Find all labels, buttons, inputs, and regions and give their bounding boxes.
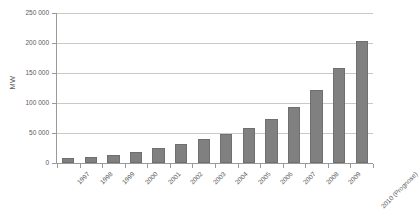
x-axis-tick — [80, 164, 81, 168]
y-axis-tick-label: 150 000 — [26, 70, 50, 77]
gridline — [57, 73, 373, 74]
x-axis-tick — [192, 164, 193, 168]
bar — [265, 119, 277, 163]
x-axis-tick-label: 1998 — [99, 171, 114, 186]
x-axis-tick-label: 2006 — [280, 171, 295, 186]
x-axis-tick — [215, 164, 216, 168]
bar — [288, 107, 300, 163]
y-axis-tick-label: 50 000 — [29, 130, 49, 137]
bar — [107, 155, 119, 163]
bar — [85, 157, 97, 163]
x-axis-tick — [57, 164, 58, 168]
x-axis-tick-label: 2004 — [235, 171, 250, 186]
bar — [152, 148, 164, 163]
x-axis-tick — [373, 164, 374, 168]
x-axis-tick-label: 2009 — [347, 171, 362, 186]
y-axis-tick-label: 0 — [45, 160, 49, 167]
x-axis-tick — [147, 164, 148, 168]
x-axis-tick-label: 2002 — [189, 171, 204, 186]
bar — [243, 128, 255, 163]
x-axis-tick — [260, 164, 261, 168]
x-axis-tick-label: 2001 — [167, 171, 182, 186]
x-axis-tick-label: 1999 — [122, 171, 137, 186]
x-axis-tick — [125, 164, 126, 168]
x-axis-tick — [238, 164, 239, 168]
bar — [356, 41, 368, 163]
x-axis-tick — [305, 164, 306, 168]
gridline — [57, 43, 373, 44]
plot-area — [57, 13, 373, 163]
y-axis-title: MW — [2, 52, 24, 112]
y-axis-tick-label: 200 000 — [26, 40, 50, 47]
x-axis-tick-label: 1997 — [77, 171, 92, 186]
x-axis-tick-label: 2010 (Prognose) — [380, 171, 419, 210]
bar — [310, 90, 322, 163]
gridline — [57, 133, 373, 134]
x-axis-tick — [283, 164, 284, 168]
y-axis-tick-label: 100 000 — [26, 100, 50, 107]
x-axis-tick — [350, 164, 351, 168]
x-axis-tick — [170, 164, 171, 168]
y-axis-title-text: MW — [9, 75, 18, 89]
bar — [333, 68, 345, 163]
gridline — [57, 103, 373, 104]
x-axis-tick-label: 2005 — [257, 171, 272, 186]
bar — [198, 139, 210, 163]
bar — [130, 152, 142, 163]
x-axis-tick-label: 2008 — [325, 171, 340, 186]
bar — [220, 134, 232, 163]
x-axis-tick-label: 2003 — [212, 171, 227, 186]
y-axis-tick-label: 250 000 — [26, 10, 50, 17]
x-axis-tick — [102, 164, 103, 168]
x-axis-tick-label: 2000 — [144, 171, 159, 186]
bar — [62, 158, 74, 163]
bar — [175, 144, 187, 163]
x-axis-tick — [328, 164, 329, 168]
gridline — [57, 13, 373, 14]
x-axis-tick-label: 2007 — [302, 171, 317, 186]
